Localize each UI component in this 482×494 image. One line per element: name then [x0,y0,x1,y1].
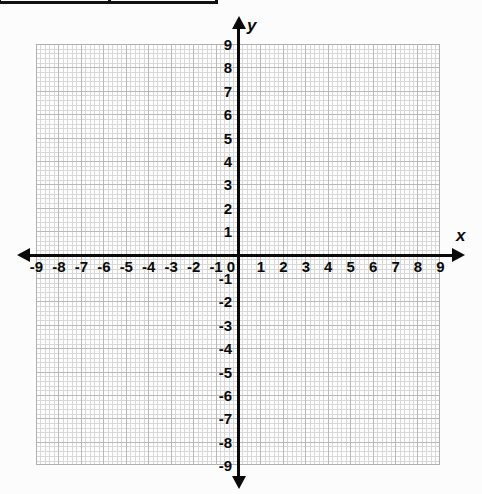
x-tick-label: 5 [339,258,363,275]
y-axis-arrow-down-icon [232,476,246,489]
x-tick-label: 4 [316,258,340,275]
y-tick-label: 5 [206,130,232,147]
y-tick-label: 6 [206,106,232,123]
y-tick-label: -4 [206,340,232,357]
y-tick-label: -1 [206,270,232,287]
y-tick-label: 2 [206,200,232,217]
coordinate-plane: x y 0 -9-8-7-6-5-4-3-2-1123456789 987654… [0,0,482,494]
y-tick-label: 4 [206,153,232,170]
y-tick-label: -3 [206,317,232,334]
x-tick-label: 8 [406,258,430,275]
y-tick-label: 9 [206,36,232,53]
x-axis-arrow-right-icon [452,248,465,262]
x-tick-label: -4 [137,258,161,275]
y-tick-label: 7 [206,83,232,100]
y-axis-arrow-up-icon [232,16,246,29]
x-tick-label: -8 [47,258,71,275]
y-tick-label: 8 [206,59,232,76]
x-tick-label: 6 [361,258,385,275]
x-tick-label: 2 [271,258,295,275]
y-tick-label: -9 [206,457,232,474]
y-tick-label: 1 [206,223,232,240]
y-axis-line [237,26,240,481]
x-tick-label: 1 [249,258,273,275]
y-tick-label: -2 [206,293,232,310]
x-tick-label: 9 [428,258,452,275]
x-tick-label: 3 [294,258,318,275]
x-tick-label: -7 [69,258,93,275]
x-tick-label: 7 [384,258,408,275]
y-tick-label: -8 [206,434,232,451]
x-tick-label: -5 [114,258,138,275]
y-tick-label: 3 [206,176,232,193]
x-tick-label: -9 [25,258,49,275]
x-tick-label: -3 [159,258,183,275]
x-axis-label: x [456,226,465,246]
y-tick-label: -5 [206,364,232,381]
y-axis-label: y [247,16,256,36]
x-tick-label: -2 [182,258,206,275]
x-tick-label: -6 [92,258,116,275]
y-tick-label: -7 [206,410,232,427]
y-tick-label: -6 [206,387,232,404]
